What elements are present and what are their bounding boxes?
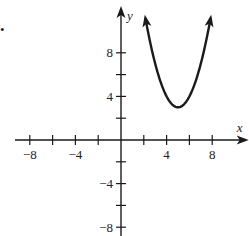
axes xyxy=(15,6,249,236)
x-tick-label: 8 xyxy=(209,147,216,162)
y-tick-label: 8 xyxy=(107,45,114,60)
y-tick-label: −4 xyxy=(99,176,113,191)
tick-labels: xy−8−44884−4−8 xyxy=(23,8,243,235)
x-tick-label: 4 xyxy=(163,147,170,162)
x-axis-label: x xyxy=(236,120,243,135)
y-tick-label: −8 xyxy=(99,220,113,235)
y-tick-label: 4 xyxy=(107,89,114,104)
y-axis-label: y xyxy=(125,8,133,23)
parabola-graph: • xy−8−44884−4−8 xyxy=(0,0,249,236)
problem-bullet: • xyxy=(0,22,5,37)
x-tick-label: −4 xyxy=(68,147,82,162)
parabola-path xyxy=(146,19,211,108)
x-tick-label: −8 xyxy=(23,147,37,162)
parabola-curve xyxy=(143,15,214,107)
